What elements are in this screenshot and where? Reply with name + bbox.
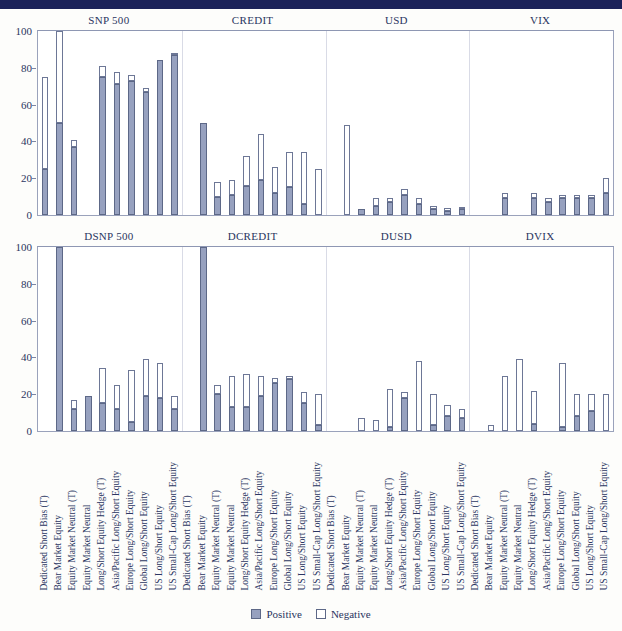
bar-segment-positive [128,422,135,431]
y-tick-label: 20 [21,172,32,184]
legend-label-positive: Positive [266,608,301,620]
bar-segment-negative [574,394,581,416]
bar-segment-negative [373,420,380,431]
stacked-bar [401,189,408,215]
bar-segment-negative [430,394,437,425]
y-tick-label: 60 [21,315,32,327]
bar-segment-positive [545,202,552,215]
stacked-bar [56,31,63,215]
bar-segment-positive [171,409,178,431]
bar-segment-positive [430,209,437,215]
plot-area-bottom [37,246,614,432]
bar-segment-positive [56,123,63,215]
bar-segment-positive [143,396,150,431]
bar-segment-positive [258,180,265,215]
x-axis-label: Europe Long/Short Equity [413,489,423,590]
group-separator [326,247,327,431]
bar-segment-positive [373,206,380,215]
y-tick-label: 40 [21,351,32,363]
plot-area-top [37,30,614,216]
bar-segment-positive [416,204,423,215]
x-axis-label: US Long/Short Equity [585,504,595,590]
y-tick-mark [32,68,36,69]
stacked-bar [430,394,437,431]
stacked-bar [200,123,207,215]
bar-segment-negative [373,198,380,205]
group-header-credit: CREDIT [232,14,274,26]
bar-segment-negative [258,134,265,180]
bar-segment-negative [444,405,451,416]
y-tick-mark [32,321,36,322]
stacked-bar [301,392,308,431]
bar-segment-negative [315,394,322,425]
bar-segment-positive [315,425,322,431]
bar-segment-positive [243,186,250,215]
x-axis-label: Dedicated Short Bias (T) [183,495,193,590]
group-header-usd: USD [385,14,408,26]
stacked-bar [516,359,523,431]
bar-segment-negative [99,368,106,403]
bar-segment-positive [531,198,538,215]
bar-segment-negative [272,167,279,193]
stacked-bar [258,376,265,431]
stacked-bar [459,208,466,215]
bar-segment-negative [214,182,221,197]
x-axis-label: Asia/Pacific Long/Short Equity [255,470,265,590]
x-axis-label: Asia/Pacific Long/Short Equity [111,470,121,590]
y-tick-mark [32,105,36,106]
bar-segment-positive [401,195,408,215]
bar-segment-negative [516,359,523,431]
group-header-snp-500: SNP 500 [88,14,129,26]
x-axis-label: Global Long/Short Equity [284,491,294,590]
x-axis-labels: Dedicated Short Bias (T)Bear Market Equi… [0,450,622,598]
stacked-bar [301,152,308,215]
y-tick-mark [32,178,36,179]
group-separator [182,31,183,215]
x-axis-label: US Small-Cap Long/Short Equity [312,461,322,590]
top-banner [0,0,622,9]
stacked-bar [128,370,135,431]
stacked-bar [214,385,221,431]
bar-segment-positive [401,398,408,431]
bar-segment-positive [214,197,221,215]
stacked-bar [416,198,423,215]
stacked-bar [344,125,351,215]
bar-segment-positive [42,169,49,215]
x-axis-label: Dedicated Short Bias (T) [470,495,480,590]
stacked-bar [286,376,293,431]
stacked-bar [85,396,92,431]
stacked-bar [603,394,610,431]
bar-segment-positive [99,77,106,215]
stacked-bar [401,392,408,431]
stacked-bar [171,53,178,215]
bar-segment-positive [444,416,451,431]
stacked-bar [559,363,566,431]
bar-segment-positive [214,394,221,431]
stacked-bar [71,140,78,215]
x-axis-label: Global Long/Short Equity [140,491,150,590]
x-axis-label: Europe Long/Short Equity [557,489,567,590]
bar-segment-negative [99,66,106,77]
bar-segment-positive [99,403,106,431]
y-axis-top: 020406080100 [0,30,37,216]
bar-segment-positive [387,427,394,431]
bar-segment-negative [387,389,394,428]
y-tick-label: 20 [21,388,32,400]
bar-segment-positive [286,379,293,431]
bar-segment-positive [143,92,150,215]
x-axis-label: Global Long/Short Equity [427,491,437,590]
x-axis-label: Equity Market Neutral [82,504,92,590]
stacked-bar [588,394,595,431]
group-header-vix: VIX [530,14,550,26]
group-header-dusd: DUSD [381,230,412,242]
bar-segment-positive [358,209,365,215]
bar-segment-negative [588,394,595,411]
stacked-bar [272,167,279,215]
bar-segment-negative [416,361,423,431]
x-axis-label: Dedicated Short Bias (T) [327,495,337,590]
bar-segment-negative [56,31,63,123]
group-header-row-bottom: DSNP 500DCREDITDUSDDVIX [0,228,622,246]
bar-segment-positive [157,60,164,215]
bar-segment-positive [301,403,308,431]
bar-segment-negative [301,152,308,204]
